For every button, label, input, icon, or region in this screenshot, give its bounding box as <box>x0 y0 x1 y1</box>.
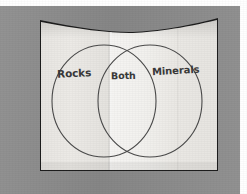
margin-top <box>0 0 247 6</box>
paper-body <box>38 12 220 173</box>
venn-label-overlap: Both <box>111 71 136 81</box>
margin-right <box>240 0 247 194</box>
worksheet-frame <box>38 12 220 173</box>
paper-svg <box>38 12 220 173</box>
screenshot-root: Rocks Both Minerals <box>0 0 247 194</box>
paper-sheet <box>38 12 220 173</box>
venn-label-left: Rocks <box>57 67 92 79</box>
